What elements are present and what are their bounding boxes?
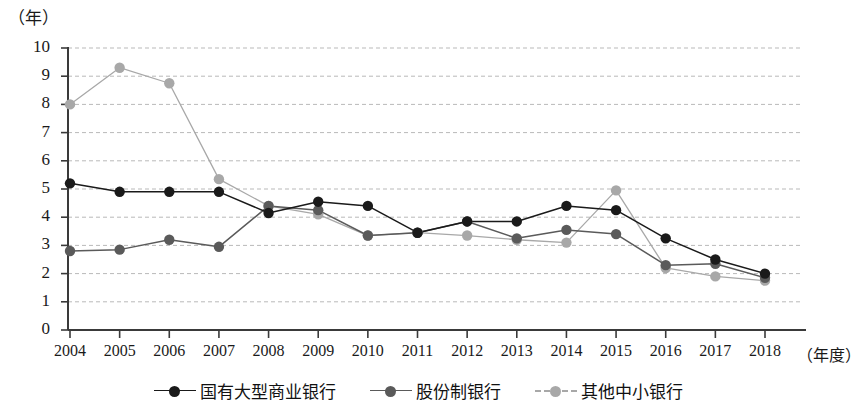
data-point <box>164 187 174 197</box>
legend-marker-icon <box>370 384 412 398</box>
legend-item[interactable]: 其他中小银行 <box>535 378 683 403</box>
data-point <box>760 268 770 278</box>
x-axis-unit-label: （年度） <box>797 342 855 366</box>
data-point <box>65 99 75 109</box>
legend-dot <box>385 386 396 397</box>
y-axis-unit-label: （年） <box>8 4 59 29</box>
data-point <box>313 196 323 206</box>
legend-item[interactable]: 国有大型商业银行 <box>154 378 336 403</box>
data-point <box>561 237 571 247</box>
data-point <box>363 201 373 211</box>
data-point <box>512 216 522 226</box>
data-point <box>114 244 124 254</box>
data-point <box>561 201 571 211</box>
legend-marker-icon <box>535 384 577 398</box>
data-point <box>412 228 422 238</box>
y-axis-tick-label: 8 <box>16 93 50 113</box>
data-point <box>611 229 621 239</box>
x-axis-tick-label: 2018 <box>735 342 795 360</box>
data-point <box>65 246 75 256</box>
y-axis-tick-label: 6 <box>16 150 50 170</box>
data-point <box>710 271 720 281</box>
data-point <box>214 242 224 252</box>
data-point <box>363 230 373 240</box>
data-point <box>561 225 571 235</box>
series-line <box>70 68 765 281</box>
y-axis-tick-label: 10 <box>16 37 50 57</box>
legend-label: 股份制银行 <box>416 378 501 403</box>
legend-marker-icon <box>154 384 196 398</box>
y-axis-tick-label: 2 <box>16 263 50 283</box>
data-point <box>661 260 671 270</box>
legend-dot <box>169 386 180 397</box>
y-axis-tick-label: 9 <box>16 65 50 85</box>
y-axis-tick-label: 0 <box>16 319 50 339</box>
data-point <box>114 187 124 197</box>
data-point <box>65 178 75 188</box>
y-axis-tick-label: 1 <box>16 291 50 311</box>
y-axis-tick-label: 4 <box>16 206 50 226</box>
data-point <box>611 185 621 195</box>
data-point <box>611 205 621 215</box>
data-point <box>214 187 224 197</box>
data-point <box>214 174 224 184</box>
data-point <box>164 78 174 88</box>
y-axis-tick-label: 3 <box>16 234 50 254</box>
data-point <box>263 208 273 218</box>
legend-label: 其他中小银行 <box>581 378 683 403</box>
data-point <box>462 216 472 226</box>
data-point <box>512 233 522 243</box>
data-point <box>661 233 671 243</box>
data-point <box>114 63 124 73</box>
y-axis-tick-label: 5 <box>16 178 50 198</box>
legend-dot <box>550 386 561 397</box>
chart-legend: 国有大型商业银行股份制银行其他中小银行 <box>0 378 836 403</box>
data-point <box>710 254 720 264</box>
legend-item[interactable]: 股份制银行 <box>370 378 501 403</box>
legend-label: 国有大型商业银行 <box>200 378 336 403</box>
y-axis-tick-label: 7 <box>16 122 50 142</box>
data-point <box>164 235 174 245</box>
data-point <box>462 230 472 240</box>
